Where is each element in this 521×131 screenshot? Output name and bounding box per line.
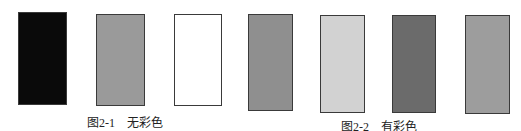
figure-number: 图2-2 <box>341 120 369 131</box>
swatch-gray-2 <box>465 15 510 114</box>
swatch-dark-gray <box>392 15 436 113</box>
swatch-gray <box>96 14 145 106</box>
figure-caption-2-1: 图2-1无彩色 <box>87 113 163 131</box>
figure-caption-2-2: 图2-2有彩色 <box>341 117 417 131</box>
swatch-white <box>174 14 222 106</box>
figure-title: 有彩色 <box>381 120 417 131</box>
swatch-black <box>18 12 67 105</box>
swatch-light-gray <box>320 15 365 113</box>
figure-number: 图2-1 <box>87 116 115 130</box>
swatch-medium-gray <box>248 14 293 111</box>
figure-title: 无彩色 <box>127 116 163 130</box>
